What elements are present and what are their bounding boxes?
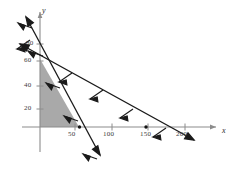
steep-line-arrowhead-bottom	[93, 146, 100, 155]
normal-arrow	[153, 128, 166, 140]
normal-arrow	[90, 90, 103, 102]
figure-canvas: 50 100 150 200 80 60 40 20 x y	[0, 0, 239, 174]
steep-line-x-intercept-dot	[78, 125, 81, 128]
steep-line-arrowhead-top	[26, 17, 33, 26]
shallow-line-x-intercept-dot	[144, 125, 147, 128]
feasible-region-shading	[40, 59, 79, 127]
y-tick-label-80: 80	[26, 39, 33, 47]
y-tick-label-40: 40	[24, 81, 31, 89]
x-tick-label-150: 150	[140, 130, 151, 138]
x-axis-title: x	[222, 126, 226, 135]
feasible-region-plot	[0, 0, 239, 174]
x-tick-label-50: 50	[68, 130, 75, 138]
normal-arrow	[83, 154, 97, 161]
x-tick-label-100: 100	[103, 130, 114, 138]
y-tick-label-60: 60	[24, 56, 31, 64]
x-axis-arrowhead	[210, 125, 216, 130]
x-tick-label-200: 200	[176, 130, 187, 138]
normal-arrow	[120, 109, 133, 121]
y-tick-label-20: 20	[24, 104, 31, 112]
y-axis-title: y	[42, 6, 46, 15]
